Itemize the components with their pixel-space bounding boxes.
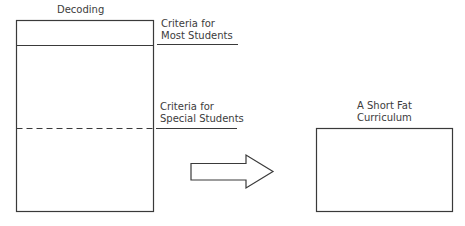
decoding-box (17, 21, 154, 212)
curriculum-title-line1: A Short Fat (357, 100, 412, 112)
short-fat-curriculum-box (317, 129, 453, 212)
criteria-most-line2: Most Students (161, 30, 233, 42)
curriculum-title-line2: Curriculum (357, 112, 412, 124)
criteria-special-line2: Special Students (160, 113, 244, 125)
right-arrow-icon (191, 155, 273, 188)
criteria-most-line1: Criteria for (161, 18, 215, 30)
decoding-title: Decoding (57, 4, 104, 16)
criteria-special-line1: Criteria for (160, 101, 214, 113)
